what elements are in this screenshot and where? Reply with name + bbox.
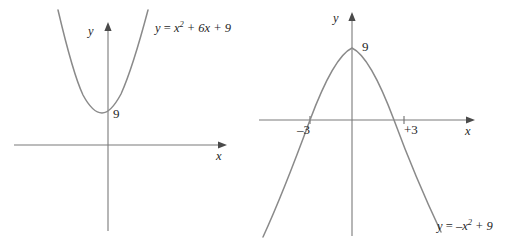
- right-vertex-value-label: 9: [362, 40, 369, 53]
- left-vertex-value-label: 9: [113, 107, 120, 120]
- graph-canvas: [0, 0, 516, 244]
- left-parabola-curve: [58, 10, 148, 113]
- right-x-axis-label: x: [465, 125, 471, 138]
- left-panel-graphics: [14, 10, 227, 231]
- left-y-axis-arrow-icon: [104, 22, 111, 31]
- left-equation-rest: + 6x + 9: [187, 21, 231, 35]
- parabola-figure: y x 9 y = x2 + 6x + 9 y x 9 –3 +3 y = –x…: [0, 0, 516, 244]
- right-equation-label: y = –x2 + 9: [437, 218, 493, 233]
- right-root-negative-label: –3: [297, 123, 310, 136]
- right-x-axis-arrow-icon: [466, 116, 475, 123]
- left-equation-lhs: y: [155, 21, 161, 35]
- right-equation-lhs: y: [437, 219, 443, 233]
- left-equation-equals: =: [164, 21, 171, 35]
- right-equation-rest: + 9: [475, 219, 493, 233]
- left-y-axis-label: y: [88, 25, 94, 38]
- right-y-axis-label: y: [333, 12, 339, 25]
- right-root-positive-label: +3: [404, 123, 418, 136]
- left-x-axis-label: x: [216, 150, 222, 163]
- left-x-axis-arrow-icon: [218, 141, 227, 148]
- right-y-axis-arrow-icon: [348, 12, 355, 21]
- right-equation-term: –x: [456, 219, 468, 233]
- left-equation-label: y = x2 + 6x + 9: [155, 20, 231, 35]
- right-equation-equals: =: [446, 219, 453, 233]
